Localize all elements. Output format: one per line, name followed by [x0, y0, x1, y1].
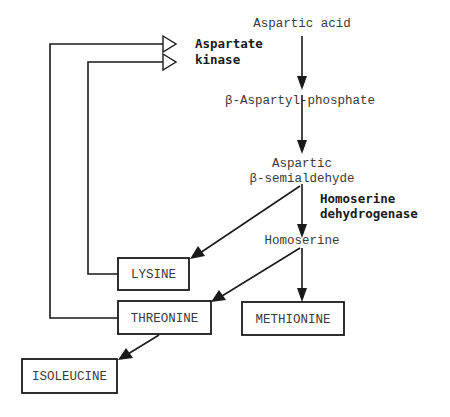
- arrow-semialdehyde-to-homoserine: [297, 184, 307, 238]
- pathway-diagram: Aspartate kinase Aspartic acid β-Asparty…: [0, 0, 450, 417]
- node-aspartic-acid: Aspartic acid: [253, 17, 351, 31]
- node-semialdehyde-line2: β-semialdehyde: [249, 172, 354, 186]
- node-threonine: THREONINE: [131, 312, 199, 326]
- node-lysine-box: LYSINE: [118, 258, 189, 290]
- node-aspartyl-phosphate: β-Aspartyl-phosphate: [225, 94, 375, 108]
- arrowhead-icon: [297, 76, 307, 90]
- arrow-aspartic-to-phosphate: [297, 36, 307, 90]
- node-threonine-box: THREONINE: [118, 301, 211, 334]
- inhibition-arrowhead-icon: [163, 54, 176, 70]
- enzyme-label-homoserine-dh-1: Homoserine: [320, 191, 396, 206]
- node-homoserine: Homoserine: [264, 234, 339, 248]
- enzyme-label-aspartate-kinase-2: kinase: [195, 52, 241, 67]
- arrow-homoserine-to-threonine: [211, 248, 300, 302]
- feedback-lysine-line: [88, 54, 176, 274]
- arrow-homoserine-to-methionine: [297, 248, 307, 302]
- arrow-semialdehyde-to-lysine: [190, 186, 300, 259]
- node-lysine: LYSINE: [131, 268, 176, 282]
- arrowhead-icon: [211, 290, 226, 302]
- node-isoleucine-box: ISOLEUCINE: [22, 359, 117, 393]
- arrowhead-icon: [190, 246, 205, 259]
- arrow-threonine-to-isoleucine: [118, 335, 159, 360]
- node-methionine-box: METHIONINE: [242, 302, 344, 335]
- node-isoleucine: ISOLEUCINE: [32, 370, 107, 384]
- arrowhead-icon: [118, 348, 133, 360]
- enzyme-label-homoserine-dh-2: dehydrogenase: [320, 206, 418, 221]
- node-semialdehyde-line1: Aspartic: [272, 157, 332, 171]
- inhibition-arrowhead-icon: [163, 36, 176, 52]
- node-methionine: METHIONINE: [255, 313, 330, 327]
- arrowhead-icon: [297, 288, 307, 302]
- arrowhead-icon: [297, 140, 307, 154]
- enzyme-label-aspartate-kinase-1: Aspartate: [195, 36, 263, 51]
